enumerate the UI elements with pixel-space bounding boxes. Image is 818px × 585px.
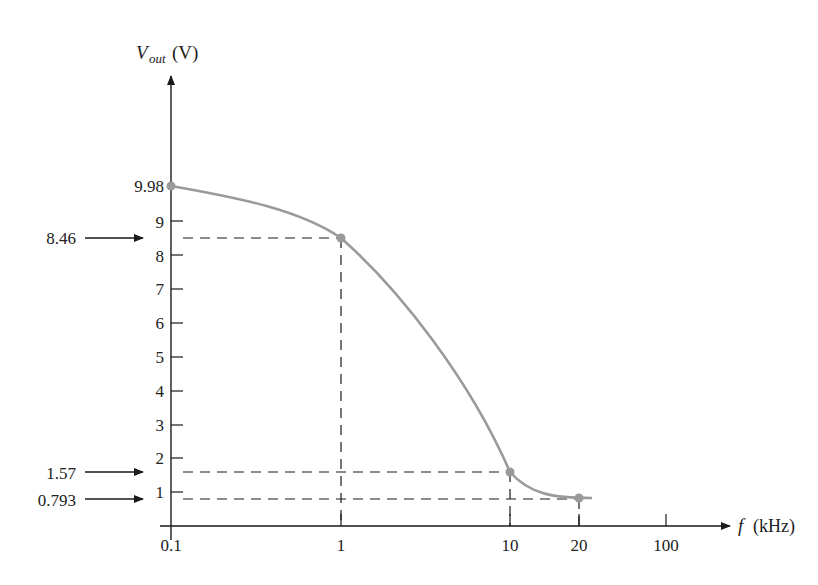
svg-text:5: 5	[156, 348, 165, 367]
annotation-0-793: 0.793	[38, 491, 76, 510]
annotations: 9.98 8.46 1.57 0.793	[38, 177, 164, 510]
x-ticks	[341, 514, 666, 526]
vout-curve	[171, 186, 592, 498]
svg-text:2: 2	[156, 449, 165, 468]
svg-text:1: 1	[337, 536, 346, 555]
svg-text:20: 20	[571, 536, 588, 555]
frequency-response-chart: 1 2 3 4 5 6 7 8 9 0.1 1 10 20 100 V out …	[0, 0, 818, 585]
svg-text:10: 10	[502, 536, 519, 555]
svg-text:1: 1	[156, 483, 165, 502]
svg-text:9: 9	[156, 213, 165, 232]
svg-text:0.1: 0.1	[160, 536, 181, 555]
svg-text:out: out	[149, 51, 166, 66]
x-tick-labels: 0.1 1 10 20 100	[160, 536, 678, 555]
x-axis-title: f (kHz)	[738, 515, 795, 537]
svg-text:7: 7	[156, 280, 165, 299]
svg-text:6: 6	[156, 314, 165, 333]
annotation-8-46: 8.46	[46, 229, 76, 248]
annotation-9-98: 9.98	[134, 177, 164, 196]
data-points	[167, 182, 584, 503]
y-axis-title: V out (V)	[136, 42, 198, 66]
svg-text:4: 4	[156, 382, 165, 401]
svg-text:(kHz): (kHz)	[753, 516, 795, 537]
svg-text:V: V	[136, 42, 150, 63]
svg-text:f: f	[738, 515, 746, 536]
y-ticks	[171, 221, 183, 492]
svg-text:8: 8	[156, 247, 165, 266]
svg-text:3: 3	[156, 416, 165, 435]
annotation-arrows	[85, 238, 143, 499]
y-tick-labels: 1 2 3 4 5 6 7 8 9	[156, 213, 165, 502]
svg-text:100: 100	[653, 536, 679, 555]
annotation-1-57: 1.57	[46, 464, 76, 483]
svg-text:(V): (V)	[172, 42, 198, 64]
